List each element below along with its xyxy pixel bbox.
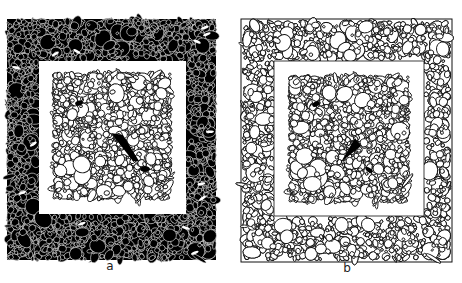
panel-b-label: b — [337, 261, 357, 275]
panel-a-label: a — [100, 259, 120, 273]
texture-panel-b — [0, 0, 462, 283]
